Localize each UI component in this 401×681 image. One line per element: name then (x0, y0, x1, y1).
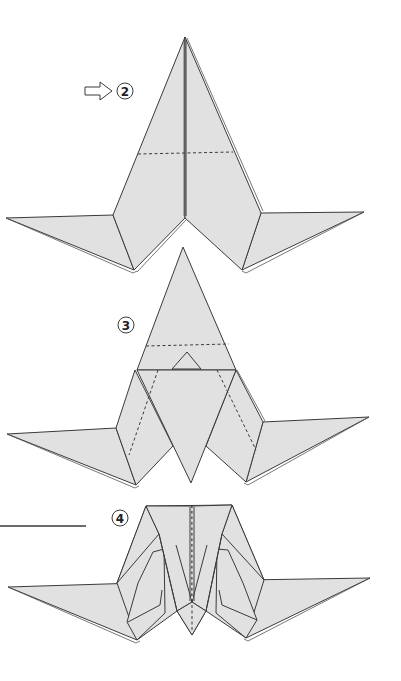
right-wing (246, 417, 369, 482)
step-4-figure: 4 (0, 505, 370, 643)
step-2-figure: 2 (6, 37, 364, 273)
step-number-3: 3 (122, 319, 130, 333)
step-number-4: 4 (116, 512, 124, 526)
left-wing (8, 583, 138, 640)
right-body-panel (185, 37, 261, 270)
turn-over-arrow-icon (85, 82, 112, 100)
step-3-figure: 3 (7, 247, 369, 488)
step-number-2: 2 (121, 85, 129, 99)
left-wing (7, 428, 136, 485)
right-wing (245, 578, 370, 638)
left-wing (6, 215, 134, 270)
right-wing (242, 212, 364, 270)
origami-diagram: 2 3 (0, 0, 401, 681)
top-point (137, 247, 236, 370)
